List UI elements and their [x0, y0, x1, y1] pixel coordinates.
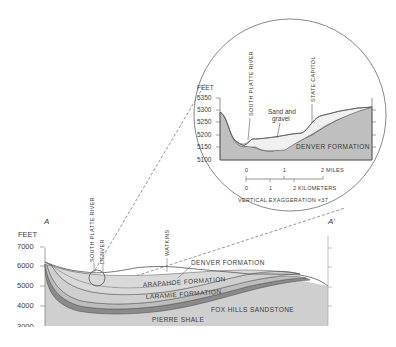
denver-formation-label: DENVER FORMATION [191, 259, 265, 266]
svg-text:2: 2 [293, 185, 296, 191]
inset-denver-formation-label: DENVER FORMATION [296, 143, 370, 150]
main-tick-5000: 5000 [17, 281, 34, 290]
svg-text:1: 1 [269, 185, 272, 191]
main-denver-label: DENVER [99, 239, 105, 264]
svg-text:KILOMETERS: KILOMETERS [298, 185, 336, 191]
inset-south-platte-river-label: SOUTH PLATTE RIVER [248, 51, 254, 116]
svg-text:1: 1 [283, 167, 286, 173]
connector-line-upper [95, 84, 205, 270]
vertical-exaggeration-note: VERTICAL EXAGGERATION ×37 [238, 197, 328, 203]
section-label-a: A [43, 217, 49, 226]
inset-sand-gravel-label: Sand and [268, 108, 296, 115]
main-feet-label: FEET [18, 230, 38, 239]
inset-tick-5250: 5250 [197, 118, 212, 125]
inset-feet-label: FEET [197, 84, 214, 91]
main-tick-4000: 4000 [17, 301, 34, 310]
svg-text:0: 0 [245, 167, 248, 173]
pierre-shale-label: PIERRE SHALE [152, 316, 204, 323]
svg-text:MILES: MILES [326, 167, 344, 173]
inset-tick-5300: 5300 [197, 106, 212, 113]
main-south-platte-river-label: SOUTH PLATTE RIVER [89, 197, 95, 262]
inset-sand-gravel-label-2: gravel [272, 115, 290, 123]
svg-text:0: 0 [245, 185, 248, 191]
main-tick-7000: 7000 [17, 242, 34, 251]
main-watkins-label: WATKINS [164, 229, 170, 256]
fox-hills-sandstone-label: FOX HILLS SANDSTONE [211, 306, 294, 313]
inset-magnified-view: FEET 5350 5300 5250 5200 5150 5100 SOUTH… [194, 19, 386, 211]
inset-tick-5350: 5350 [197, 94, 212, 101]
section-label-a-prime: A' [327, 217, 335, 226]
inset-tick-5150: 5150 [197, 143, 212, 150]
geologic-cross-section-diagram: FEET 5350 5300 5250 5200 5150 5100 SOUTH… [0, 0, 396, 347]
main-cross-section: FEET 7000 6000 5000 4000 3000 SOUTH PLAT… [17, 197, 332, 331]
inset-tick-5100: 5100 [197, 156, 212, 163]
inset-state-capitol-label: STATE CAPITOL [310, 56, 316, 102]
svg-text:2: 2 [321, 167, 324, 173]
main-tick-6000: 6000 [17, 261, 34, 270]
inset-tick-5200: 5200 [197, 131, 212, 138]
